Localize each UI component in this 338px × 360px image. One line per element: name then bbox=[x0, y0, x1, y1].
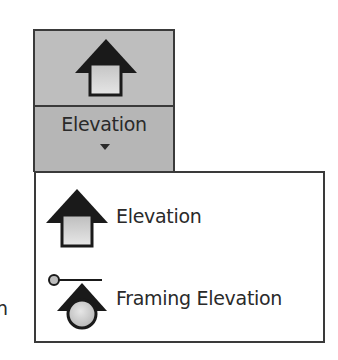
elevation-button-main[interactable] bbox=[35, 31, 173, 107]
elevation-arrow-icon bbox=[73, 37, 139, 99]
elevation-split-button: Elevation bbox=[33, 29, 175, 172]
elevation-button-dropdown[interactable]: Elevation bbox=[35, 107, 173, 174]
menu-item-framing-elevation[interactable]: Framing Elevation bbox=[36, 265, 323, 337]
framing-elevation-icon bbox=[44, 269, 114, 335]
elevation-dropdown-menu: Elevation Framing Elevation bbox=[34, 171, 325, 343]
menu-item-elevation[interactable]: Elevation bbox=[36, 183, 323, 255]
chevron-down-icon bbox=[100, 144, 110, 150]
elevation-button-label: Elevation bbox=[35, 113, 173, 135]
elevation-arrow-icon bbox=[44, 187, 110, 249]
background-partial-text: n bbox=[0, 297, 8, 319]
menu-item-label: Elevation bbox=[116, 205, 202, 227]
menu-item-label: Framing Elevation bbox=[116, 287, 282, 309]
